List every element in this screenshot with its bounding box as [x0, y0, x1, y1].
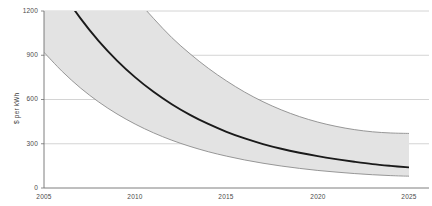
chart-plot-area	[0, 0, 432, 206]
x-tick-label-2015: 2015	[214, 194, 238, 201]
x-tick-label-2005: 2005	[32, 194, 56, 201]
x-tick-label-2020: 2020	[306, 194, 330, 201]
y-tick-label-0: 0	[20, 185, 38, 192]
chart-container: $ per kWh 1200 900 600 300 0 2005 2010 2…	[0, 0, 432, 206]
y-tick-label-900: 900	[20, 52, 38, 59]
x-tick-label-2025: 2025	[397, 194, 421, 201]
y-tick-label-1200: 1200	[20, 8, 38, 15]
x-tick-label-2010: 2010	[123, 194, 147, 201]
y-tick-label-300: 300	[20, 141, 38, 148]
y-tick-label-600: 600	[20, 96, 38, 103]
uncertainty-band	[44, 0, 409, 176]
